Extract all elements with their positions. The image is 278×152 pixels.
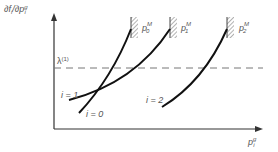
limit-hatch-2: [227, 17, 234, 38]
x-axis-arrow-icon: [255, 126, 263, 132]
curve-i-1: [69, 29, 170, 100]
limit-hatch-0: [131, 17, 138, 38]
curve-i-0: [79, 29, 131, 113]
curve-label-i-0: i = 0: [86, 109, 103, 119]
x-axis-label: pgi: [247, 136, 257, 148]
curve-label-i-2: i = 2: [146, 95, 163, 105]
curve-label-i-1: i = 1: [61, 90, 78, 100]
limit-hatch-1: [170, 17, 177, 38]
limit-label-1: pM1: [180, 21, 191, 34]
limit-label-0: pM0: [141, 21, 152, 34]
y-axis-arrow-icon: [51, 13, 57, 21]
y-axis-label: ∂fi/∂pgi: [4, 4, 28, 15]
lambda-label: λ(1): [57, 56, 69, 66]
curve-i-2: [162, 29, 227, 107]
limit-label-2: pM2: [238, 21, 249, 34]
marginal-cost-diagram: ∂fi/∂pgi pgi λ(1) i = 1 i = 0 i = 2 pM0 …: [0, 0, 278, 152]
